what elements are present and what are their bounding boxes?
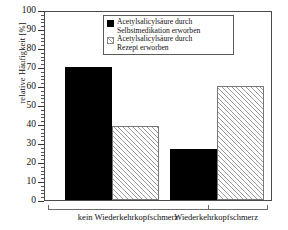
x-group-label-1: Wiederkehrkopfschmerz [152, 212, 280, 222]
y-tick-label: 60 [27, 82, 37, 92]
y-tick-label: 10 [27, 177, 37, 187]
legend-entry-rezept: Acetylsalicylsäure durch Rezept erworben [107, 35, 230, 52]
bar-1-0 [170, 149, 217, 200]
legend-swatch-hatched-icon [107, 37, 114, 44]
bracket-tick [48, 205, 49, 210]
bar-0-0 [65, 67, 112, 200]
y-tick-label: 90 [27, 25, 37, 35]
y-tick-major [38, 201, 44, 202]
bar-chart: relative Häufigkeit [%] 0102030405060708… [0, 0, 288, 230]
bracket-line [48, 209, 268, 210]
bar-0-1 [112, 126, 159, 200]
legend-label-0: Acetylsalicylsäure durch Selbstmedikatio… [117, 18, 200, 35]
y-tick-label: 30 [27, 139, 37, 149]
y-tick-label: 70 [27, 63, 37, 73]
y-tick-label: 0 [31, 196, 36, 206]
y-tick-label: 80 [27, 44, 37, 54]
legend-label-1: Acetylsalicylsäure durch Rezept erworben [117, 35, 192, 52]
bracket-tick [208, 205, 209, 210]
y-tick-label: 100 [22, 6, 36, 16]
y-axis: 0102030405060708090100 [0, 0, 44, 230]
legend-entry-selbstmedikation: Acetylsalicylsäure durch Selbstmedikatio… [107, 18, 230, 35]
legend: Acetylsalicylsäure durch Selbstmedikatio… [103, 15, 234, 55]
y-tick-label: 20 [27, 158, 37, 168]
bar-1-1 [217, 86, 264, 200]
y-tick-label: 50 [27, 101, 37, 111]
y-tick-label: 40 [27, 120, 37, 130]
group-bracket [44, 203, 272, 210]
bracket-tick [267, 205, 268, 210]
legend-swatch-solid-icon [107, 20, 114, 27]
